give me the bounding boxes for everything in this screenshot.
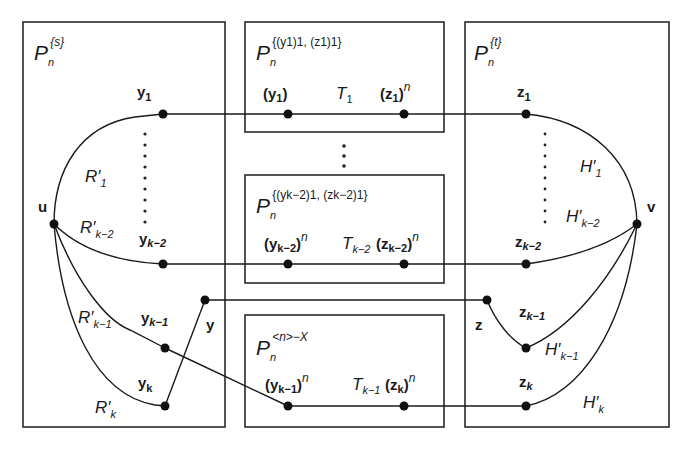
label-zk2: zk−2 — [515, 233, 541, 252]
disjoint-paths-diagram: Pn{s} Pn{(y1)1, (z1)1} Pn{(yk−2)1, (zk−2… — [0, 0, 691, 452]
path-Hk2 — [526, 224, 637, 264]
label-R1: R′1 — [85, 167, 107, 189]
ellipsis-right — [544, 133, 547, 224]
label-z1: z1 — [517, 83, 531, 103]
node-y1 — [159, 110, 168, 119]
node-z1 — [522, 110, 531, 119]
node-zk1 — [522, 344, 531, 353]
node-z — [483, 296, 492, 305]
label-zk2n-mid: (zk−2)n — [376, 230, 419, 254]
label-Rk2: R′k−2 — [80, 218, 114, 240]
path-R1 — [54, 114, 163, 224]
node-y — [201, 296, 210, 305]
node-z1n-mid — [400, 110, 409, 119]
label-v: v — [647, 198, 656, 215]
node-yk1 — [161, 344, 170, 353]
label-u: u — [38, 198, 47, 215]
node-zkn-mid — [400, 402, 409, 411]
node-zk — [522, 402, 531, 411]
node-yk1n-mid — [284, 402, 293, 411]
label-y: y — [206, 316, 215, 333]
label-Tk1: Tk−1 — [352, 375, 380, 396]
node-v — [633, 220, 642, 229]
label-Hk1: H′k−1 — [545, 340, 579, 362]
node-zk2n-mid — [400, 260, 409, 269]
label-Hk2: H′k−2 — [566, 207, 600, 229]
label-yk2n-mid: (yk−2)n — [264, 230, 308, 254]
ellipsis-middle — [342, 144, 346, 168]
label-Rk1: R′k−1 — [78, 308, 112, 330]
path-Hk1 — [526, 224, 637, 348]
node-yk2 — [159, 260, 168, 269]
ellipsis-left — [143, 132, 146, 223]
label-T1: T1 — [336, 84, 353, 105]
label-Tk2: Tk−2 — [342, 234, 370, 255]
label-Rk: R′k — [95, 398, 116, 420]
node-y1-mid — [284, 110, 293, 119]
node-yk — [161, 402, 170, 411]
label-y1-mid: (y1) — [263, 85, 287, 104]
label-zk1: zk−1 — [519, 303, 545, 322]
title-mid2: Pn{(yk−2)1, (zk−2)1} — [256, 188, 368, 221]
label-Hk: H′k — [583, 393, 604, 415]
title-right: Pn{t} — [474, 35, 502, 68]
node-u — [50, 220, 59, 229]
label-yk1: yk−1 — [141, 309, 168, 328]
title-mid3: Pn<n>−X — [256, 330, 309, 363]
label-z: z — [475, 316, 483, 333]
title-mid1: Pn{(y1)1, (z1)1} — [256, 35, 342, 68]
label-yk: yk — [138, 374, 153, 394]
label-y1: y1 — [137, 83, 151, 103]
label-zkn-mid: (zk)n — [385, 371, 416, 395]
title-left: Pn{s} — [34, 35, 64, 68]
node-yk2n-mid — [284, 260, 293, 269]
label-yk1n-mid: (yk−1)n — [265, 371, 309, 395]
label-yk2: yk−2 — [139, 230, 166, 249]
label-zk: zk — [519, 373, 534, 392]
label-H1: H′1 — [580, 157, 602, 179]
edge-yk-y — [165, 300, 205, 406]
label-z1n-mid: (z1)n — [380, 80, 411, 104]
node-zk2 — [522, 260, 531, 269]
